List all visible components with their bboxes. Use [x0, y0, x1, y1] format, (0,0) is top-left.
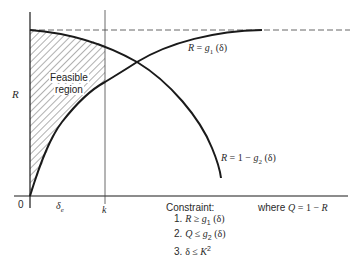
- where-definition: where Q = 1 − R: [258, 202, 328, 213]
- constraint-1: 1. R ≥ g1 (δ): [166, 213, 226, 228]
- curve-g1-label: R = g1 (δ): [188, 42, 227, 58]
- curve-one-minus-g2-label: R = 1 − g2 (δ): [221, 152, 276, 168]
- constraints-block: Constraint: 1. R ≥ g1 (δ) 2. Q ≤ g2 (δ) …: [166, 202, 226, 256]
- constraint-heading: Constraint:: [166, 202, 226, 213]
- feasible-region-label: Feasible region: [45, 72, 93, 96]
- constraint-2: 2. Q ≤ g2 (δ): [166, 228, 226, 243]
- origin-label: 0: [18, 199, 24, 210]
- delta-e-tick-label: δe: [56, 200, 64, 216]
- k-tick-label: k: [102, 204, 106, 215]
- y-axis-label: R: [12, 89, 19, 100]
- constraint-3: 3. δ ≤ K2: [166, 243, 226, 256]
- feasible-region-hatch: [30, 28, 106, 198]
